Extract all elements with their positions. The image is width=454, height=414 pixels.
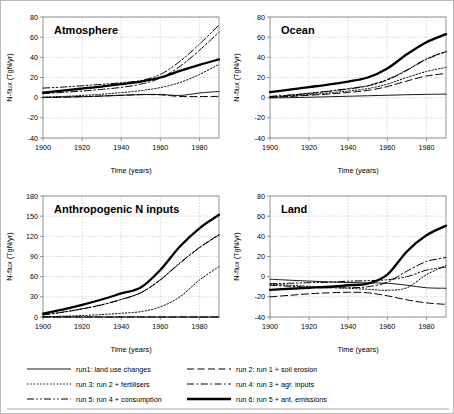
svg-text:20: 20 bbox=[257, 73, 265, 82]
svg-text:0: 0 bbox=[34, 93, 38, 102]
svg-text:Anthropogenic N inputs: Anthropogenic N inputs bbox=[54, 203, 179, 215]
svg-text:60: 60 bbox=[30, 33, 38, 42]
legend-label-run3: run 3: run 2 + fertilisers bbox=[76, 380, 150, 389]
svg-text:80: 80 bbox=[257, 192, 265, 201]
svg-text:1920: 1920 bbox=[301, 322, 317, 331]
svg-text:30: 30 bbox=[30, 292, 38, 301]
svg-text:120: 120 bbox=[26, 232, 38, 241]
figure-legend: run1: land use changesrun 2: run 1 + soi… bbox=[1, 359, 454, 414]
svg-text:1980: 1980 bbox=[418, 322, 434, 331]
figure-panel-container: 806040200-20-4019001920194019601980Time … bbox=[0, 0, 454, 414]
svg-text:60: 60 bbox=[257, 212, 265, 221]
svg-text:N-flux (TgN/yr): N-flux (TgN/yr) bbox=[5, 53, 14, 101]
svg-text:Time (years): Time (years) bbox=[337, 345, 378, 354]
chart-panel-atmosphere: 806040200-20-4019001920194019601980Time … bbox=[1, 1, 228, 180]
svg-text:Ocean: Ocean bbox=[281, 24, 315, 36]
svg-text:-40: -40 bbox=[28, 134, 38, 143]
svg-text:-40: -40 bbox=[255, 313, 265, 322]
svg-text:150: 150 bbox=[26, 212, 38, 221]
svg-text:20: 20 bbox=[257, 252, 265, 261]
svg-text:1960: 1960 bbox=[152, 322, 168, 331]
legend-label-run4: run 4: run 3 + agr. inputs bbox=[236, 380, 315, 389]
legend-label-run5: run 5: run 4 + consumption bbox=[76, 395, 162, 404]
svg-text:40: 40 bbox=[30, 53, 38, 62]
legend-label-run1: run1: land use changes bbox=[76, 365, 151, 374]
svg-text:-20: -20 bbox=[255, 292, 265, 301]
svg-text:80: 80 bbox=[257, 13, 265, 22]
svg-text:1960: 1960 bbox=[379, 143, 395, 152]
svg-text:1940: 1940 bbox=[340, 322, 356, 331]
svg-text:1980: 1980 bbox=[191, 322, 207, 331]
svg-text:60: 60 bbox=[30, 272, 38, 281]
svg-text:80: 80 bbox=[30, 13, 38, 22]
svg-text:1900: 1900 bbox=[35, 322, 51, 331]
svg-text:N-flux (TgN/yr): N-flux (TgN/yr) bbox=[232, 232, 241, 280]
svg-text:40: 40 bbox=[257, 53, 265, 62]
legend-label-run2: run 2: run 1 + soil erosion bbox=[236, 365, 317, 374]
svg-text:1920: 1920 bbox=[301, 143, 317, 152]
svg-text:60: 60 bbox=[257, 33, 265, 42]
legend-label-run6: run 6: run 5 + ant. emissions bbox=[236, 395, 327, 404]
svg-text:1980: 1980 bbox=[418, 143, 434, 152]
svg-text:-20: -20 bbox=[255, 113, 265, 122]
svg-text:0: 0 bbox=[261, 272, 265, 281]
svg-text:Time (years): Time (years) bbox=[110, 166, 151, 175]
svg-text:1960: 1960 bbox=[152, 143, 168, 152]
svg-text:90: 90 bbox=[30, 252, 38, 261]
svg-text:1940: 1940 bbox=[113, 322, 129, 331]
svg-text:1900: 1900 bbox=[262, 143, 278, 152]
svg-text:-20: -20 bbox=[28, 113, 38, 122]
chart-panel-ocean: 806040200-20-4019001920194019601980Time … bbox=[228, 1, 454, 180]
svg-text:1920: 1920 bbox=[74, 322, 90, 331]
svg-text:0: 0 bbox=[34, 313, 38, 322]
svg-text:N-flux (TgN/yr): N-flux (TgN/yr) bbox=[5, 232, 14, 280]
svg-text:1920: 1920 bbox=[74, 143, 90, 152]
svg-text:Atmosphere: Atmosphere bbox=[54, 24, 118, 36]
svg-text:40: 40 bbox=[257, 232, 265, 241]
svg-text:Time (years): Time (years) bbox=[337, 166, 378, 175]
svg-text:1900: 1900 bbox=[262, 322, 278, 331]
svg-text:1980: 1980 bbox=[191, 143, 207, 152]
chart-panel-land: 806040200-20-4019001920194019601980Time … bbox=[228, 180, 454, 359]
svg-text:180: 180 bbox=[26, 192, 38, 201]
svg-text:1940: 1940 bbox=[113, 143, 129, 152]
svg-text:-40: -40 bbox=[255, 134, 265, 143]
svg-text:Land: Land bbox=[281, 203, 307, 215]
svg-text:1900: 1900 bbox=[35, 143, 51, 152]
svg-text:20: 20 bbox=[30, 73, 38, 82]
chart-grid: 806040200-20-4019001920194019601980Time … bbox=[1, 1, 454, 359]
svg-text:1960: 1960 bbox=[379, 322, 395, 331]
svg-text:1940: 1940 bbox=[340, 143, 356, 152]
chart-panel-anthropogenic-n-inputs: 180150120906030019001920194019601980Time… bbox=[1, 180, 228, 359]
svg-text:0: 0 bbox=[261, 93, 265, 102]
svg-text:Time (years): Time (years) bbox=[110, 345, 151, 354]
svg-text:N-flux (TgN/yr): N-flux (TgN/yr) bbox=[232, 53, 241, 101]
